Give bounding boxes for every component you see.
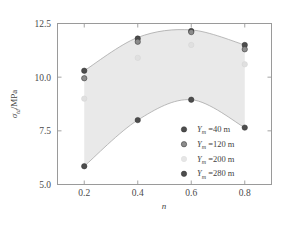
- legend-label-3: Ym =280 m: [197, 168, 235, 179]
- data-point: [82, 68, 87, 73]
- legend-marker-1: [181, 142, 186, 147]
- data-point: [189, 97, 194, 102]
- legend-label-2: Ym =200 m: [197, 154, 235, 165]
- x-tick-label-1: 0.4: [132, 188, 144, 198]
- y-tick-labels: 5.0 7.5 10.0 12.5: [34, 19, 51, 190]
- legend-marker-0: [181, 127, 186, 132]
- data-point: [135, 55, 140, 60]
- y-tick-label-1: 7.5: [39, 126, 51, 136]
- y-tick-label-3: 12.5: [34, 19, 51, 29]
- x-tick-label-0: 0.2: [78, 188, 90, 198]
- legend-marker-2: [181, 156, 186, 161]
- data-point: [135, 117, 140, 122]
- y-tick-label-0: 5.0: [39, 180, 51, 190]
- x-tick-label-2: 0.6: [185, 188, 197, 198]
- legend-marker-3: [181, 171, 186, 176]
- y-tick-label-2: 10.0: [34, 73, 51, 83]
- svg-text:σtd/MPa: σtd/MPa: [9, 90, 21, 119]
- scatter-plot: 5.0 7.5 10.0 12.5 0.2 0.4 0.6 0.8 n σtd/…: [0, 0, 293, 227]
- data-point: [189, 42, 194, 47]
- x-tick-label-3: 0.8: [239, 188, 251, 198]
- data-point: [242, 125, 247, 130]
- y-axis-unit: /MPa: [9, 90, 19, 110]
- x-axis-title: n: [162, 201, 167, 211]
- data-point: [82, 164, 87, 169]
- y-axis-title: σtd/MPa: [9, 90, 21, 119]
- legend: Ym =40 mYm =120 mYm =200 mYm =280 m: [181, 124, 235, 180]
- x-tick-labels: 0.2 0.4 0.6 0.8: [78, 188, 251, 198]
- data-point: [242, 47, 247, 52]
- chart-figure: 5.0 7.5 10.0 12.5 0.2 0.4 0.6 0.8 n σtd/…: [0, 0, 293, 227]
- legend-label-1: Ym =120 m: [197, 139, 235, 150]
- data-point: [242, 62, 247, 67]
- data-point: [189, 29, 194, 34]
- data-point: [82, 76, 87, 81]
- data-point: [135, 39, 140, 44]
- legend-label-0: Ym =40 m: [197, 124, 231, 135]
- data-point: [82, 96, 87, 101]
